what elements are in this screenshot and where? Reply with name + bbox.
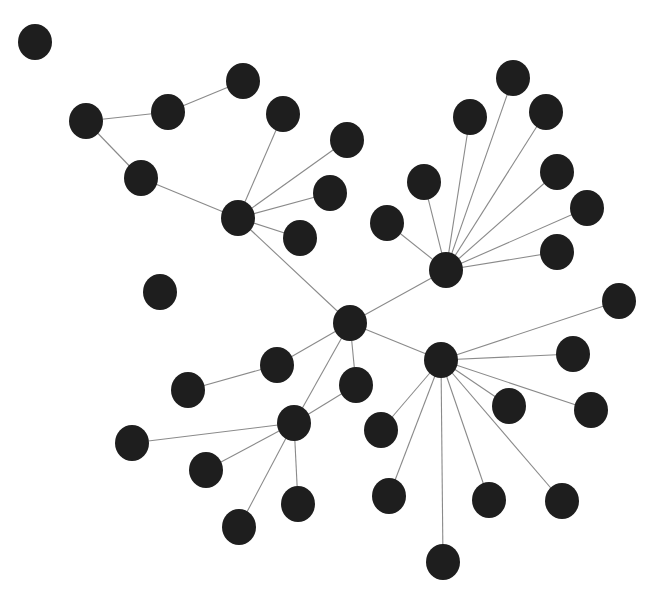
graph-node [151,94,185,130]
graph-node [472,482,506,518]
graph-node [370,205,404,241]
graph-node [426,544,460,580]
graph-isolated-node [18,24,52,60]
graph-isolated-node [143,274,177,310]
graph-node [496,60,530,96]
network-graph [0,0,671,616]
graph-node [281,486,315,522]
graph-background [0,0,671,616]
graph-node [171,372,205,408]
graph-hub-node [429,252,463,288]
graph-node [313,175,347,211]
graph-node [540,234,574,270]
graph-node [529,94,563,130]
graph-node [260,347,294,383]
graph-hub-node [424,342,458,378]
graph-node [602,283,636,319]
graph-node [222,509,256,545]
graph-node [226,63,260,99]
graph-node [266,96,300,132]
graph-node [453,99,487,135]
graph-node [115,425,149,461]
graph-node [407,164,441,200]
graph-node [124,160,158,196]
graph-node [69,103,103,139]
graph-node [574,392,608,428]
graph-hub-node [277,405,311,441]
graph-node [540,154,574,190]
graph-node [556,336,590,372]
graph-node [570,190,604,226]
graph-node [364,412,398,448]
graph-node [339,367,373,403]
graph-hub-node [221,200,255,236]
graph-hub-node [333,305,367,341]
graph-node [330,122,364,158]
graph-node [372,478,406,514]
graph-node [492,388,526,424]
graph-node [545,483,579,519]
graph-node [283,220,317,256]
graph-node [189,452,223,488]
